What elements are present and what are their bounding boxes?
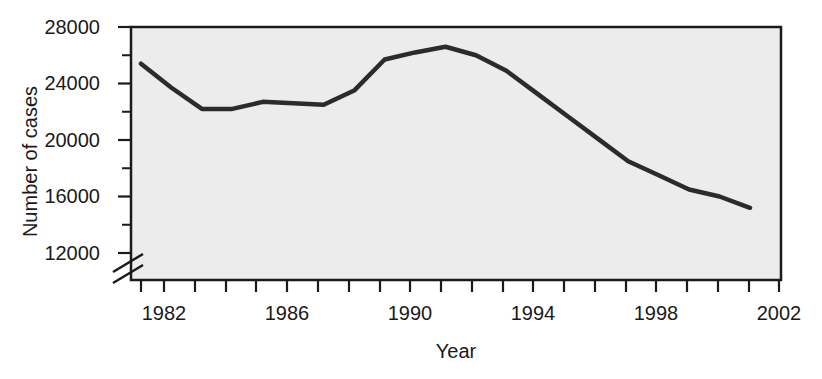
plot-background [131,27,781,280]
x-axis-ticks [141,280,779,292]
y-axis-major-ticks [118,27,131,253]
chart-figure: Number of cases 28000 24000 20000 16000 … [0,0,822,379]
plot-svg [0,0,822,379]
